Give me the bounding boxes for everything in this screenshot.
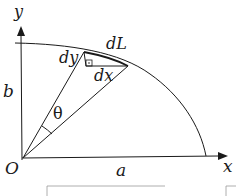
x-axis-label: x <box>223 158 233 175</box>
theta-label: θ <box>53 106 63 122</box>
right-angle-dot-icon <box>88 62 90 64</box>
y-axis-label: y <box>14 4 23 20</box>
origin-label: O <box>5 160 19 177</box>
ellipse-arc <box>15 43 206 156</box>
dy-label: dy <box>59 50 78 66</box>
dL-label: dL <box>106 36 127 52</box>
semi-axis-a-label: a <box>116 162 126 179</box>
x-axis <box>22 156 218 158</box>
semi-axis-b-label: b <box>3 83 14 100</box>
dx-label: dx <box>94 68 113 84</box>
y-axis <box>21 36 22 160</box>
y-axis-arrow-icon <box>17 26 25 36</box>
ellipse-diagram: y x O a b dy dL dx θ <box>0 0 236 196</box>
theta-angle-arc <box>42 126 52 134</box>
